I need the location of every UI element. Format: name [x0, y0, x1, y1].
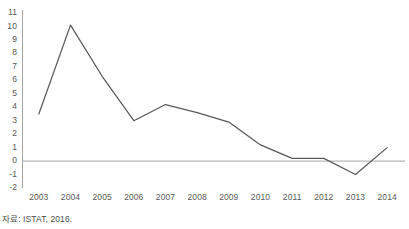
y-tick-label: 10: [1, 22, 17, 31]
data-series-line: [39, 25, 387, 174]
x-tick-label: 2005: [85, 193, 119, 202]
x-tick-label: 2014: [370, 193, 404, 202]
y-tick-label: 1: [1, 143, 17, 152]
y-tick-label: -1: [1, 170, 17, 179]
y-tick-label: 11: [1, 8, 17, 17]
axes-group: [23, 10, 406, 188]
y-tick-label: 4: [1, 102, 17, 111]
x-tick-label: 2009: [212, 193, 246, 202]
x-tick-label: 2003: [22, 193, 56, 202]
y-tick-label: 5: [1, 89, 17, 98]
x-tick-label: 2011: [275, 193, 309, 202]
x-tick-label: 2006: [117, 193, 151, 202]
y-tick-label: 0: [1, 156, 17, 165]
chart-figure: 11109876543210-1-2 200320042005200620072…: [0, 0, 409, 229]
x-tick-label: 2004: [54, 193, 88, 202]
y-tick-label: 3: [1, 116, 17, 125]
x-tick-label: 2012: [307, 193, 341, 202]
x-tick-label: 2007: [149, 193, 183, 202]
source-caption: 자료: ISTAT, 2016.: [2, 212, 72, 224]
y-tick-label: 6: [1, 75, 17, 84]
x-tick-label: 2013: [339, 193, 373, 202]
y-tick-label: -2: [1, 183, 17, 192]
y-tick-label: 2: [1, 129, 17, 138]
plot-area: 11109876543210-1-2 200320042005200620072…: [0, 0, 409, 205]
y-tick-label: 9: [1, 35, 17, 44]
y-tick-label: 7: [1, 62, 17, 71]
x-tick-label: 2008: [180, 193, 214, 202]
x-tick-label: 2010: [244, 193, 278, 202]
y-tick-label: 8: [1, 48, 17, 57]
line-chart-svg: [0, 0, 409, 205]
